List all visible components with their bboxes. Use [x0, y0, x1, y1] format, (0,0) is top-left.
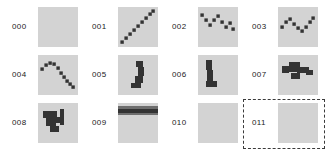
- thumbnail-tile[interactable]: [198, 103, 238, 143]
- grid-cell[interactable]: 006: [172, 55, 238, 95]
- thumbnail-index-label: 008: [12, 119, 38, 127]
- thumbnail-tile[interactable]: [278, 7, 318, 47]
- thumbnail-tile[interactable]: [198, 7, 238, 47]
- thumbnail-index-label: 005: [92, 71, 118, 79]
- grid-cell[interactable]: 004: [12, 55, 78, 95]
- thumbnail-tile[interactable]: [198, 55, 238, 95]
- thumbnail-index-label: 007: [252, 71, 278, 79]
- grid-cell[interactable]: 002: [172, 7, 238, 47]
- grid-cell[interactable]: 007: [252, 55, 318, 95]
- grid-cell[interactable]: 009: [92, 103, 158, 143]
- thumbnail-canvas: [198, 103, 238, 143]
- thumbnail-canvas: [278, 103, 318, 143]
- grid-cell[interactable]: 005: [92, 55, 158, 95]
- thumbnail-tile[interactable]: [38, 103, 78, 143]
- grid-cell[interactable]: 008: [12, 103, 78, 143]
- thumbnail-index-label: 010: [172, 119, 198, 127]
- thumbnail-index-label: 004: [12, 71, 38, 79]
- thumbnail-canvas: [278, 7, 318, 47]
- thumbnail-grid: 000001002003004005006007008009010011: [0, 0, 329, 155]
- thumbnail-tile[interactable]: [118, 55, 158, 95]
- thumbnail-canvas: [38, 103, 78, 143]
- thumbnail-tile[interactable]: [38, 55, 78, 95]
- thumbnail-tile[interactable]: [118, 103, 158, 143]
- thumbnail-tile[interactable]: [278, 103, 318, 143]
- thumbnail-tile[interactable]: [278, 55, 318, 95]
- thumbnail-canvas: [198, 7, 238, 47]
- thumbnail-index-label: 001: [92, 23, 118, 31]
- grid-cell[interactable]: 011: [252, 103, 318, 143]
- thumbnail-tile[interactable]: [118, 7, 158, 47]
- grid-cell[interactable]: 003: [252, 7, 318, 47]
- thumbnail-canvas: [38, 7, 78, 47]
- grid-cell[interactable]: 001: [92, 7, 158, 47]
- thumbnail-index-label: 009: [92, 119, 118, 127]
- thumbnail-index-label: 011: [252, 119, 278, 127]
- thumbnail-canvas: [118, 103, 158, 143]
- thumbnail-index-label: 000: [12, 23, 38, 31]
- thumbnail-index-label: 006: [172, 71, 198, 79]
- thumbnail-tile[interactable]: [38, 7, 78, 47]
- thumbnail-index-label: 002: [172, 23, 198, 31]
- thumbnail-canvas: [118, 7, 158, 47]
- grid-cell[interactable]: 010: [172, 103, 238, 143]
- thumbnail-index-label: 003: [252, 23, 278, 31]
- grid-cell[interactable]: 000: [12, 7, 78, 47]
- thumbnail-canvas: [38, 55, 78, 95]
- thumbnail-canvas: [198, 55, 238, 95]
- thumbnail-canvas: [118, 55, 158, 95]
- thumbnail-canvas: [278, 55, 318, 95]
